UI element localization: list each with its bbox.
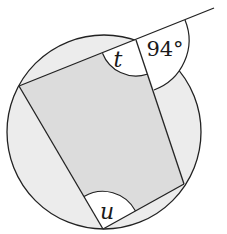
angle-u-label: u (100, 199, 114, 224)
exterior-angle-label: 94° (146, 37, 183, 61)
angle-t-label: t (114, 47, 123, 72)
cyclic-quadrilateral-diagram: t 94° u (0, 0, 227, 234)
